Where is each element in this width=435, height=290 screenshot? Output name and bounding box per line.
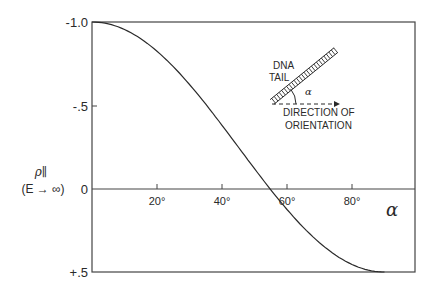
x-tick-label: 40° — [214, 195, 231, 207]
inset-label-tail: TAIL — [269, 72, 290, 83]
y-tick-label: 0 — [81, 182, 88, 197]
angle-arc — [291, 89, 296, 104]
x-tick-label: 20° — [149, 195, 166, 207]
inset-diagram: α DNA TAIL DIRECTION OF ORIENTATION — [269, 48, 355, 131]
plot-frame — [92, 22, 415, 272]
inset-label-dna: DNA — [273, 60, 294, 71]
x-axis-label: α — [386, 199, 398, 220]
x-axis-ticks — [157, 184, 352, 189]
y-axis-sublabel: (E → ∞) — [21, 182, 64, 196]
inset-orientation-label: ORIENTATION — [285, 120, 352, 131]
x-tick-label: 60° — [279, 195, 296, 207]
x-tick-label: 80° — [344, 195, 361, 207]
y-axis-label: ρ∥ — [34, 165, 48, 179]
inset-direction-label: DIRECTION OF — [283, 107, 355, 118]
y-tick-label: -1.0 — [66, 15, 88, 30]
chart: -1.0 -.5 0 +.5 20° 40° 60° 80° α ρ∥ (E →… — [0, 0, 435, 290]
y-tick-label: -.5 — [73, 99, 88, 114]
inset-angle-label: α — [305, 86, 312, 97]
data-curve — [92, 22, 385, 272]
y-tick-label: +.5 — [70, 265, 88, 280]
